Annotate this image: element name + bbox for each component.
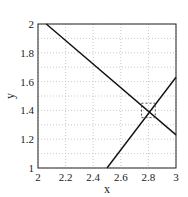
y-tick-label: 2 bbox=[29, 18, 35, 30]
x-tick-label: 2.2 bbox=[59, 171, 73, 183]
y-axis-label: y bbox=[3, 93, 17, 99]
x-tick-label: 3 bbox=[173, 171, 179, 183]
x-tick-label: 2 bbox=[35, 171, 41, 183]
x-axis-label: x bbox=[104, 182, 110, 196]
series-line-ascending bbox=[107, 77, 176, 168]
line-chart: 22.22.42.62.8311.21.41.61.82xy bbox=[0, 0, 188, 197]
y-tick-label: 1 bbox=[29, 162, 35, 174]
series-line-descending bbox=[46, 24, 176, 135]
y-tick-label: 1.6 bbox=[20, 76, 34, 88]
x-tick-label: 2.4 bbox=[86, 171, 100, 183]
y-tick-label: 1.2 bbox=[20, 133, 34, 145]
x-tick-label: 2.6 bbox=[114, 171, 128, 183]
y-tick-label: 1.4 bbox=[20, 104, 34, 116]
x-tick-label: 2.8 bbox=[142, 171, 156, 183]
y-tick-label: 1.8 bbox=[20, 47, 34, 59]
